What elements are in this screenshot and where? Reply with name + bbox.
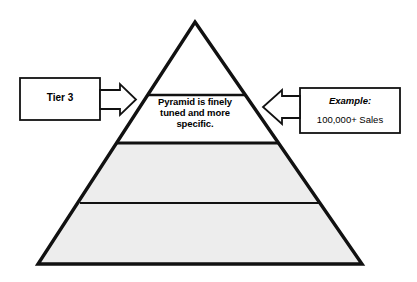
tier-fill-middle — [0, 143, 417, 203]
pyramid-band-label: Pyramid is finely tuned and more specifi… — [131, 96, 259, 130]
right-callout-value: 100,000+ Sales — [302, 114, 398, 125]
pyramid-diagram: Pyramid is finely tuned and more specifi… — [0, 0, 417, 282]
tier-fill-base — [0, 203, 417, 282]
left-callout-label: Tier 3 — [21, 92, 99, 104]
pyramid-graphic — [0, 0, 417, 282]
right-arrow-icon — [263, 90, 300, 124]
right-callout-title: Example: — [302, 95, 398, 106]
